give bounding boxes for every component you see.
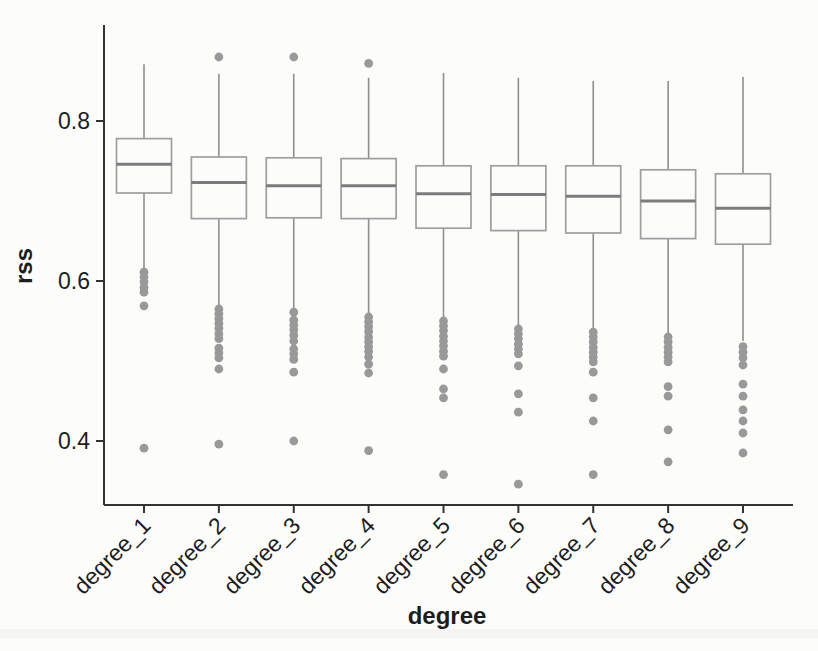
outlier-point	[514, 361, 523, 370]
x-tick-label: degree_6	[443, 512, 530, 599]
boxplot-degree_5	[416, 73, 471, 479]
outlier-point	[214, 440, 223, 449]
x-tick-label: degree_8	[593, 512, 680, 599]
outlier-point	[364, 360, 373, 369]
x-tick-label: degree_7	[518, 512, 605, 599]
boxplot-degree_8	[641, 81, 696, 466]
outlier-point	[364, 369, 373, 378]
outlier-point	[439, 385, 448, 394]
outlier-point	[289, 308, 298, 317]
boxplot-degree_4	[341, 59, 396, 455]
outlier-point	[739, 429, 748, 438]
x-axis-title: degree	[408, 602, 487, 629]
outlier-point	[214, 353, 223, 362]
outlier-point	[140, 288, 149, 297]
outlier-point	[364, 446, 373, 455]
boxplot-degree_7	[566, 81, 621, 479]
boxplot-degree_1	[117, 64, 172, 452]
outlier-point	[739, 417, 748, 426]
box-iqr	[491, 166, 546, 231]
outlier-point	[589, 368, 598, 377]
x-tick-label: degree_4	[293, 512, 380, 599]
box-iqr	[266, 158, 321, 218]
outlier-point	[140, 444, 149, 453]
outlier-point	[439, 393, 448, 402]
boxplot-degree_2	[191, 53, 246, 449]
outlier-point	[739, 405, 748, 414]
outlier-point	[739, 449, 748, 458]
outlier-point	[739, 361, 748, 370]
outlier-point	[589, 393, 598, 402]
outlier-point	[289, 355, 298, 364]
outlier-point	[289, 53, 298, 62]
outlier-point	[439, 365, 448, 374]
box-iqr	[416, 166, 471, 228]
boxplot-degree_3	[266, 53, 321, 446]
outlier-point	[364, 59, 373, 68]
y-tick-label: 0.8	[58, 108, 90, 134]
boxplot-degree_6	[491, 78, 546, 489]
axes-layer: 0.40.60.8degree_1degree_2degree_3degree_…	[58, 25, 793, 599]
outlier-point	[289, 368, 298, 377]
outlier-point	[664, 357, 673, 366]
outlier-point	[664, 425, 673, 434]
outlier-point	[589, 470, 598, 479]
figure-canvas: 0.40.60.8degree_1degree_2degree_3degree_…	[0, 0, 818, 651]
outlier-point	[289, 437, 298, 446]
box-iqr	[191, 157, 246, 219]
outlier-point	[664, 392, 673, 401]
box-iqr	[341, 159, 396, 219]
outlier-point	[214, 365, 223, 374]
box-iqr	[641, 170, 696, 239]
outlier-point	[514, 408, 523, 417]
boxplot-chart: 0.40.60.8degree_1degree_2degree_3degree_…	[0, 0, 818, 651]
outlier-point	[739, 392, 748, 401]
x-tick-label: degree_3	[218, 512, 305, 599]
outlier-point	[214, 53, 223, 62]
boxplot-degree_9	[716, 77, 771, 457]
outlier-point	[514, 349, 523, 358]
y-tick-label: 0.6	[58, 268, 90, 294]
outlier-point	[439, 352, 448, 361]
outlier-point	[664, 382, 673, 391]
box-iqr	[117, 139, 172, 193]
outlier-point	[140, 301, 149, 310]
x-tick-label: degree_5	[368, 512, 455, 599]
outlier-point	[739, 380, 748, 389]
x-tick-label: degree_9	[667, 512, 754, 599]
outlier-point	[214, 334, 223, 343]
y-tick-label: 0.4	[58, 428, 90, 454]
outlier-point	[589, 417, 598, 426]
boxes-layer	[117, 53, 771, 489]
outlier-point	[289, 337, 298, 346]
y-axis-title: rss	[10, 248, 37, 284]
outlier-point	[514, 480, 523, 489]
outlier-point	[664, 457, 673, 466]
box-iqr	[566, 166, 621, 233]
outlier-point	[589, 357, 598, 366]
outlier-point	[514, 389, 523, 398]
outlier-point	[439, 470, 448, 479]
x-tick-label: degree_2	[143, 512, 230, 599]
x-tick-label: degree_1	[68, 512, 155, 599]
